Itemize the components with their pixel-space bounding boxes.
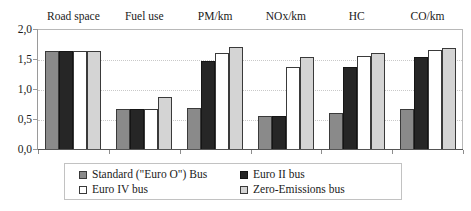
- bar[interactable]: [215, 53, 229, 149]
- bar-groups-container: [38, 29, 463, 149]
- category-separator-tick: [109, 150, 110, 154]
- legend-item[interactable]: Euro II bus: [240, 167, 401, 182]
- y-axis-tick-label: 1,0: [0, 83, 32, 95]
- y-axis-tick-label: 1,5: [0, 53, 32, 65]
- bar[interactable]: [400, 109, 414, 149]
- bar-chart-figure: Road spaceFuel usePM/kmNOx/kmHCCO/km 0,0…: [0, 0, 471, 211]
- legend-swatch-icon: [240, 171, 248, 179]
- y-axis-tick-mark: [33, 89, 38, 90]
- bar-group: [180, 29, 251, 149]
- bar[interactable]: [73, 51, 87, 149]
- bar[interactable]: [428, 50, 442, 149]
- bar[interactable]: [286, 67, 300, 149]
- category-separator-tick: [38, 150, 39, 154]
- category-separator-tick: [463, 150, 464, 154]
- bar[interactable]: [442, 48, 456, 149]
- y-axis-tick-mark: [33, 59, 38, 60]
- bar[interactable]: [357, 56, 371, 149]
- category-label: NOx/km: [250, 6, 321, 26]
- category-label: CO/km: [392, 6, 463, 26]
- bar[interactable]: [300, 57, 314, 149]
- legend-swatch-icon: [79, 186, 87, 194]
- category-separator-tick: [321, 150, 322, 154]
- legend-swatch-icon: [79, 171, 87, 179]
- bar-group: [392, 29, 463, 149]
- category-separator-tick: [392, 150, 393, 154]
- y-axis-tick-label: 0,0: [0, 143, 32, 155]
- legend-label: Euro II bus: [253, 168, 305, 181]
- category-label: PM/km: [180, 6, 251, 26]
- bar[interactable]: [158, 97, 172, 149]
- category-label: HC: [321, 6, 392, 26]
- bar[interactable]: [116, 109, 130, 149]
- bar[interactable]: [187, 108, 201, 149]
- bar[interactable]: [371, 53, 385, 149]
- legend-item[interactable]: Standard ("Euro O") Bus: [79, 167, 240, 182]
- y-axis-tick-mark: [33, 29, 38, 30]
- category-separator-tick: [180, 150, 181, 154]
- y-axis-tick-label: 2,0: [0, 23, 32, 35]
- category-label: Road space: [38, 6, 109, 26]
- y-axis-tick-mark: [33, 119, 38, 120]
- y-axis-tick-labels: 0,00,51,01,52,0: [0, 24, 32, 150]
- chart-legend: Standard ("Euro O") BusEuro II busEuro I…: [64, 163, 402, 200]
- bar[interactable]: [87, 51, 101, 149]
- bar-group: [321, 29, 392, 149]
- legend-item[interactable]: Euro IV bus: [79, 182, 240, 197]
- y-axis-tick-label: 0,5: [0, 113, 32, 125]
- bar-group: [38, 29, 109, 149]
- category-separator-tick: [251, 150, 252, 154]
- category-label-row: Road spaceFuel usePM/kmNOx/kmHCCO/km: [38, 6, 463, 26]
- bar[interactable]: [201, 61, 215, 149]
- bar[interactable]: [144, 109, 158, 149]
- legend-label: Euro IV bus: [92, 183, 148, 196]
- bar[interactable]: [343, 67, 357, 149]
- legend-label: Zero-Emissions bus: [253, 183, 345, 196]
- bar[interactable]: [272, 116, 286, 149]
- bar[interactable]: [414, 57, 428, 149]
- bar-group: [109, 29, 180, 149]
- bar[interactable]: [59, 51, 73, 149]
- category-label: Fuel use: [109, 6, 180, 26]
- bar[interactable]: [329, 113, 343, 149]
- bar[interactable]: [258, 116, 272, 149]
- bar-group: [250, 29, 321, 149]
- legend-label: Standard ("Euro O") Bus: [92, 168, 207, 181]
- bar[interactable]: [229, 47, 243, 149]
- bar[interactable]: [130, 109, 144, 149]
- bar[interactable]: [45, 51, 59, 149]
- legend-item[interactable]: Zero-Emissions bus: [240, 182, 401, 197]
- legend-swatch-icon: [240, 186, 248, 194]
